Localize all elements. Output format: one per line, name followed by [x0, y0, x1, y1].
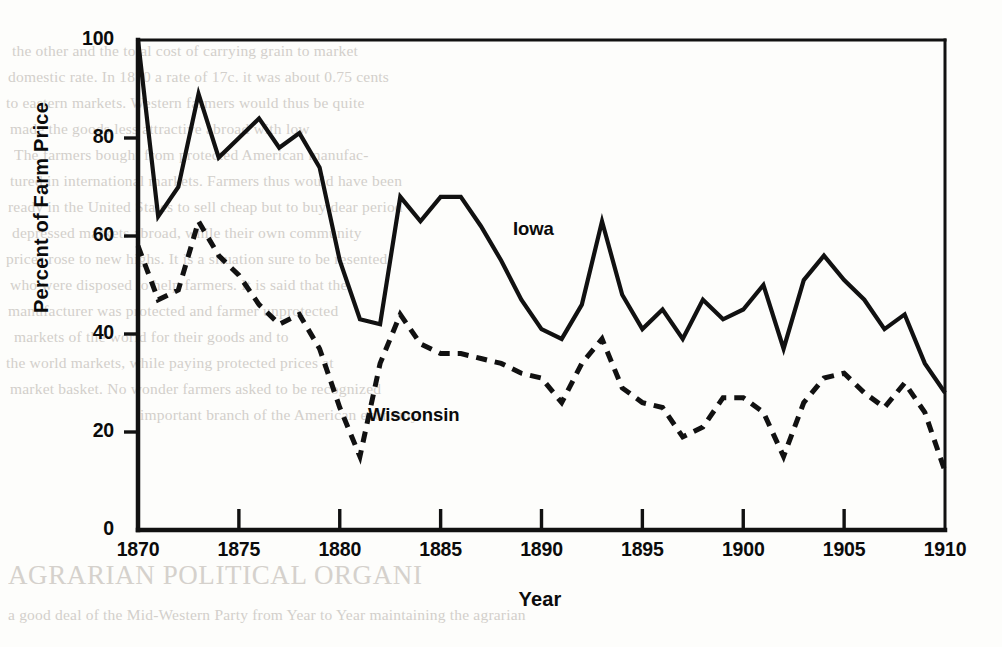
x-tick-label-1880: 1880 [300, 538, 380, 561]
x-axis-title: Year [470, 588, 610, 611]
y-tick-label-0: 0 [68, 517, 114, 540]
x-tick-label-1870: 1870 [98, 538, 178, 561]
y-tick-label-60: 60 [68, 223, 114, 246]
scanned-page: the other and the total cost of carrying… [0, 0, 1002, 647]
x-tick-label-1875: 1875 [199, 538, 279, 561]
x-tick-label-1895: 1895 [602, 538, 682, 561]
axis-frame [138, 40, 945, 530]
x-tick-label-1905: 1905 [804, 538, 884, 561]
series-label-iowa: Iowa [513, 218, 554, 240]
y-tick-label-20: 20 [68, 419, 114, 442]
y-tick-label-80: 80 [68, 125, 114, 148]
series-line-iowa [138, 40, 945, 393]
x-tick-label-1890: 1890 [502, 538, 582, 561]
x-tick-label-1910: 1910 [905, 538, 985, 561]
series-label-wisconsin: Wisconsin [368, 404, 459, 426]
x-tick-label-1900: 1900 [703, 538, 783, 561]
y-tick-label-100: 100 [68, 27, 114, 50]
x-axis-ticks [239, 509, 844, 529]
line-chart-figure: 020406080100 187018751880188518901895190… [0, 0, 1002, 647]
x-tick-label-1885: 1885 [401, 538, 481, 561]
y-tick-label-40: 40 [68, 321, 114, 344]
y-axis-title: Percent of Farm Price [30, 93, 53, 323]
